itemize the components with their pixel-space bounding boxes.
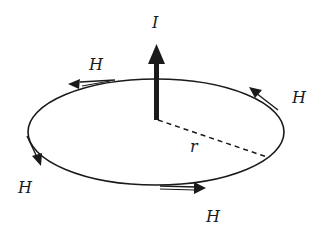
current-arrow — [148, 44, 165, 120]
field-label-bottom: H — [205, 207, 221, 226]
field-arrow-top-left-icon — [68, 79, 115, 89]
field-label-top-left: H — [88, 55, 104, 74]
field-label-top-right: H — [291, 88, 307, 107]
radius-label: r — [190, 137, 199, 156]
diagram-canvas: I H H H H r — [0, 0, 331, 236]
field-arrow-left-icon — [27, 136, 42, 166]
current-label: I — [151, 13, 159, 32]
field-label-left: H — [17, 178, 33, 197]
radius-line — [158, 120, 267, 157]
field-arrow-top-right-icon — [249, 87, 278, 110]
